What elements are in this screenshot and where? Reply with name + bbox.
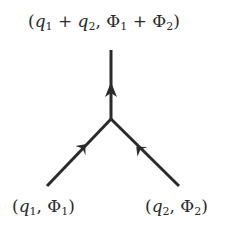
paren-close: ) [68, 196, 75, 216]
paren-open: ( [145, 196, 152, 216]
comma: , [170, 196, 181, 216]
q-symbol: q [78, 11, 89, 31]
subscript: 1 [46, 20, 53, 33]
outgoing-label: (q1 + q2, Φ1 + Φ2) [28, 13, 180, 32]
comma: , [37, 196, 48, 216]
q-symbol: q [19, 196, 30, 216]
plus-sign: + [53, 11, 78, 31]
subscript: 1 [30, 205, 37, 218]
phi-symbol: Φ [152, 11, 166, 31]
incoming-left-line [47, 118, 112, 186]
phi-symbol: Φ [180, 196, 194, 216]
incoming-left-label: (q1, Φ1) [12, 198, 75, 217]
paren-close: ) [173, 11, 180, 31]
q-symbol: q [152, 196, 163, 216]
paren-open: ( [12, 196, 19, 216]
incoming-right-label: (q2, Φ2) [145, 198, 208, 217]
phi-symbol: Φ [106, 11, 120, 31]
comma: , [95, 11, 106, 31]
paren-close: ) [201, 196, 208, 216]
paren-open: ( [28, 11, 35, 31]
plus-sign: + [127, 11, 152, 31]
incoming-right-line [110, 118, 179, 186]
q-symbol: q [35, 11, 46, 31]
subscript: 2 [163, 205, 170, 218]
phi-symbol: Φ [47, 196, 61, 216]
